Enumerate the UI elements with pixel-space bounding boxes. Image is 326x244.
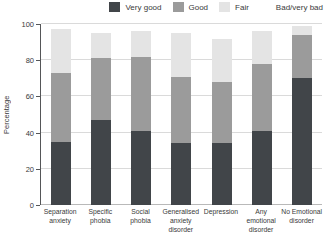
legend-label: Good <box>189 3 209 12</box>
legend-swatch-good-icon <box>173 2 184 12</box>
bars-container <box>41 24 322 205</box>
y-tick-40: 40 <box>0 128 34 137</box>
x-label-specific-phobia: Specific phobia <box>80 208 120 234</box>
bar-slot-social-phobia <box>121 24 161 205</box>
bar-slot-separation-anxiety <box>41 24 81 205</box>
legend-item-very-good: Very good <box>109 2 161 12</box>
bar-segment-very-good <box>171 143 191 205</box>
bar-depression <box>212 39 232 206</box>
y-axis-tick-labels: 100806040200 <box>0 24 34 205</box>
bar-segment-good <box>252 64 272 131</box>
x-label-no-emotional-disorder: No Emotional disorder <box>281 208 322 234</box>
bar-no-emotional-disorder <box>292 26 312 205</box>
bar-separation-anxiety <box>51 29 71 205</box>
y-tick-0: 0 <box>0 201 34 210</box>
legend-swatch-very-good-icon <box>109 2 120 12</box>
x-label-separation-anxiety: Separation anxiety <box>40 208 80 234</box>
bar-segment-fair <box>212 39 232 82</box>
x-label-social-phobia: Social phobia <box>120 208 160 234</box>
axis-tick-0 <box>36 205 40 206</box>
axis-tick-20 <box>36 169 40 170</box>
y-tick-100: 100 <box>0 20 34 29</box>
bar-segment-very-good <box>51 142 71 205</box>
bar-segment-very-good <box>91 120 111 205</box>
axis-tick-80 <box>36 60 40 61</box>
legend-item-bad-very-bad: Bad/very bad <box>260 2 323 12</box>
x-label-generalised-anxiety-disorder: Generalised anxiety disorder <box>161 208 201 234</box>
x-axis-labels: Separation anxietySpecific phobiaSocial … <box>40 208 322 234</box>
bar-segment-good <box>171 77 191 144</box>
bar-segment-fair <box>292 26 312 35</box>
bar-segment-fair <box>171 33 191 76</box>
y-tick-60: 60 <box>0 92 34 101</box>
axis-tick-40 <box>36 133 40 134</box>
bar-segment-very-good <box>212 143 232 205</box>
bar-segment-good <box>292 35 312 78</box>
legend-item-fair: Fair <box>219 2 249 12</box>
bar-segment-good <box>212 82 232 144</box>
bar-any-emotional-disorder <box>252 31 272 205</box>
bar-segment-good <box>131 57 151 131</box>
axis-tick-100 <box>36 24 40 25</box>
bar-segment-very-good <box>252 131 272 205</box>
bar-segment-good <box>51 73 71 142</box>
bar-slot-specific-phobia <box>81 24 121 205</box>
bar-segment-very-good <box>292 78 312 205</box>
legend-swatch-bad-very-bad-icon <box>260 2 271 12</box>
bar-social-phobia <box>131 31 151 205</box>
x-label-any-emotional-disorder: Any emotional disorder <box>241 208 281 234</box>
bar-segment-fair <box>131 31 151 56</box>
y-tick-80: 80 <box>0 56 34 65</box>
bar-slot-any-emotional-disorder <box>242 24 282 205</box>
bar-slot-generalised-anxiety-disorder <box>161 24 201 205</box>
y-tick-20: 20 <box>0 164 34 173</box>
bar-segment-good <box>91 58 111 120</box>
bar-segment-fair <box>51 29 71 72</box>
bar-generalised-anxiety-disorder <box>171 33 191 205</box>
bar-segment-fair <box>252 31 272 64</box>
bar-slot-depression <box>202 24 242 205</box>
bar-segment-very-good <box>131 131 151 205</box>
stacked-bar-chart: Very goodGoodFairBad/very bad Percentage… <box>0 0 326 244</box>
plot-area <box>40 24 322 205</box>
x-label-depression: Depression <box>201 208 241 234</box>
bar-specific-phobia <box>91 33 111 205</box>
legend-label: Very good <box>125 3 161 12</box>
bar-slot-no-emotional-disorder <box>282 24 322 205</box>
bar-segment-fair <box>91 33 111 58</box>
legend-item-good: Good <box>173 2 209 12</box>
legend-label: Bad/very bad <box>276 3 323 12</box>
legend: Very goodGoodFairBad/very bad <box>0 1 323 13</box>
axis-tick-60 <box>36 96 40 97</box>
legend-swatch-fair-icon <box>219 2 230 12</box>
legend-label: Fair <box>235 3 249 12</box>
